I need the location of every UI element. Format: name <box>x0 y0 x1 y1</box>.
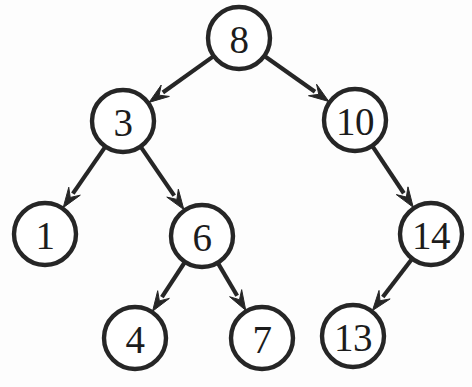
tree-edge-6-to-7 <box>218 264 246 311</box>
edge-shaft <box>141 147 174 195</box>
edge-shaft <box>383 259 412 297</box>
tree-node-4[interactable]: 4 <box>104 307 166 369</box>
tree-node-7[interactable]: 7 <box>231 307 293 369</box>
tree-node-3[interactable]: 3 <box>92 90 154 152</box>
tree-edge-14-to-13 <box>372 259 411 310</box>
edge-shaft <box>265 56 315 91</box>
tree-edge-3-to-6 <box>141 147 184 209</box>
node-label: 3 <box>114 101 133 144</box>
node-label: 14 <box>412 214 450 257</box>
tree-edge-3-to-1 <box>63 147 105 207</box>
tree-node-13[interactable]: 13 <box>322 305 384 367</box>
nodes-group: 831016144713 <box>14 7 462 369</box>
node-label: 7 <box>253 318 272 361</box>
edge-shaft <box>163 57 213 93</box>
arrow-head-icon <box>396 187 413 208</box>
node-label: 8 <box>230 18 249 61</box>
node-label: 1 <box>36 214 55 257</box>
edge-shaft <box>373 147 404 194</box>
tree-node-8[interactable]: 8 <box>208 7 270 69</box>
tree-node-6[interactable]: 6 <box>171 205 233 267</box>
node-label: 4 <box>126 318 145 361</box>
tree-node-14[interactable]: 14 <box>400 203 462 265</box>
arrow-head-icon <box>167 189 184 209</box>
node-label: 13 <box>334 316 372 359</box>
edge-shaft <box>162 263 185 297</box>
tree-edge-8-to-3 <box>149 57 213 103</box>
arrow-head-icon <box>63 187 80 207</box>
node-label: 10 <box>336 100 374 143</box>
tree-canvas: 831016144713 <box>0 0 472 387</box>
tree-node-10[interactable]: 10 <box>324 89 386 151</box>
tree-edge-6-to-4 <box>153 263 185 312</box>
edge-shaft <box>73 147 105 193</box>
binary-tree-diagram: 831016144713 <box>0 0 472 387</box>
node-label: 6 <box>193 216 212 259</box>
tree-edge-8-to-10 <box>265 56 329 101</box>
tree-edge-10-to-14 <box>373 147 414 208</box>
tree-node-1[interactable]: 1 <box>14 203 76 265</box>
edge-shaft <box>218 264 237 296</box>
arrow-head-icon <box>153 291 170 312</box>
